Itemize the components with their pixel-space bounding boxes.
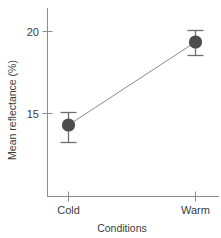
x-tick-label-cold: Cold (57, 204, 80, 216)
series-connector-line (69, 42, 196, 125)
line-chart-plot: 20 15 Cold Warm Mean reflectance (%) Con… (0, 0, 221, 238)
data-point-marker-warm (189, 35, 202, 48)
y-tick-label-20: 20 (27, 26, 39, 38)
y-tick-label-15: 15 (27, 108, 39, 120)
data-point-marker-cold (62, 118, 75, 131)
chart-container: 20 15 Cold Warm Mean reflectance (%) Con… (0, 0, 221, 238)
y-axis-title: Mean reflectance (%) (6, 60, 18, 160)
x-axis-title: Conditions (97, 222, 147, 234)
x-tick-label-warm: Warm (181, 204, 210, 216)
